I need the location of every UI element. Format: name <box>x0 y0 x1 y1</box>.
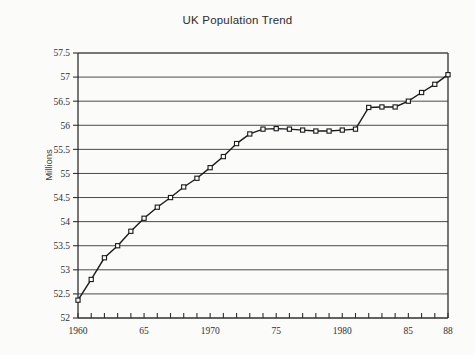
grid-lines <box>78 53 448 294</box>
line-chart-plot: 5252.55353.55454.55555.55656.55757.5 196… <box>0 0 475 355</box>
svg-text:56: 56 <box>61 121 71 131</box>
chart-page: UK Population Trend Millions 5252.55353.… <box>0 0 475 355</box>
svg-text:53: 53 <box>61 265 71 275</box>
data-series-markers <box>76 73 450 303</box>
svg-text:1960: 1960 <box>69 326 88 336</box>
svg-text:57.5: 57.5 <box>53 48 70 58</box>
svg-text:52.5: 52.5 <box>53 289 70 299</box>
svg-text:1970: 1970 <box>201 326 220 336</box>
axis-frame <box>78 53 448 318</box>
svg-text:52: 52 <box>61 313 71 323</box>
svg-text:54.5: 54.5 <box>53 193 70 203</box>
x-axis-labels: 19606519707519808588 <box>69 326 454 336</box>
svg-text:1980: 1980 <box>333 326 352 336</box>
svg-text:53.5: 53.5 <box>53 241 70 251</box>
svg-text:55: 55 <box>61 169 71 179</box>
svg-text:85: 85 <box>404 326 414 336</box>
svg-text:57: 57 <box>61 72 71 82</box>
y-axis-labels: 5252.55353.55454.55555.55656.55757.5 <box>53 48 70 323</box>
x-axis-ticks <box>78 313 448 318</box>
svg-text:54: 54 <box>61 217 71 227</box>
svg-text:56.5: 56.5 <box>53 97 70 107</box>
svg-text:55.5: 55.5 <box>53 145 70 155</box>
svg-text:75: 75 <box>271 326 281 336</box>
y-axis-ticks <box>73 53 78 318</box>
svg-text:88: 88 <box>443 326 453 336</box>
svg-text:65: 65 <box>139 326 149 336</box>
